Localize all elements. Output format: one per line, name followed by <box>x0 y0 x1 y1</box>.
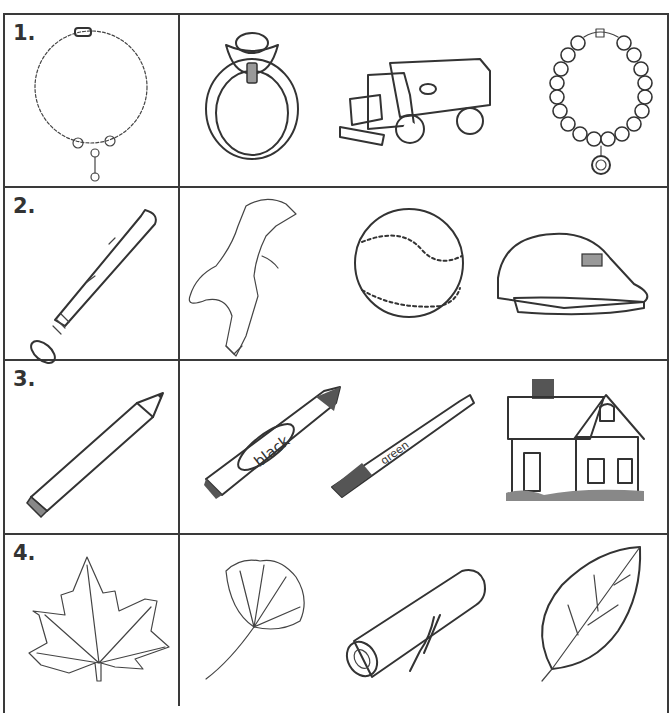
target-cell: 4. <box>5 535 180 706</box>
choices-cell <box>180 535 667 706</box>
toy-dump-truck-image[interactable] <box>340 55 490 145</box>
target-cell: 1. <box>5 15 180 186</box>
baseball-cap-image[interactable] <box>494 228 654 318</box>
worksheet-row-4: 4. <box>5 535 667 706</box>
worksheet-row-2: 2. <box>5 188 667 361</box>
dinosaur-image[interactable] <box>186 196 316 356</box>
choices-cell <box>180 15 667 186</box>
ring-image[interactable] <box>204 31 304 161</box>
chain-necklace-image <box>33 25 153 180</box>
target-cell: 2. <box>5 188 180 359</box>
marker-label: green <box>378 438 411 467</box>
maple-leaf-image <box>25 555 175 695</box>
house-image[interactable] <box>504 375 654 515</box>
worksheet-row-1: 1. <box>5 15 667 188</box>
log-image[interactable] <box>344 561 494 681</box>
baseball-image[interactable] <box>352 206 466 320</box>
target-cell: 3. <box>5 361 180 533</box>
marker-image[interactable]: green <box>310 391 480 501</box>
choices-cell <box>180 188 667 359</box>
beaded-bracelet-image[interactable] <box>548 25 658 185</box>
ginkgo-leaf-image[interactable] <box>200 551 320 681</box>
worksheet-grid: 1. <box>3 13 669 713</box>
oval-leaf-image[interactable] <box>538 545 648 685</box>
choices-cell: black green <box>180 361 667 533</box>
baseball-bat-image <box>25 206 165 356</box>
worksheet-row-3: 3. black green <box>5 361 667 535</box>
pencil-image <box>27 383 177 513</box>
